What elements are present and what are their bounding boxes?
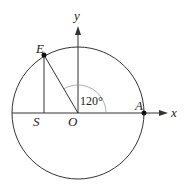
label-O: O: [68, 114, 78, 129]
segment-OE: [44, 55, 78, 113]
label-angle: 120°: [80, 94, 103, 108]
unit-circle-diagram: y x E A S O 120°: [0, 0, 185, 193]
label-A: A: [134, 98, 143, 113]
label-S: S: [33, 114, 40, 129]
y-axis-arrow-icon: [75, 26, 81, 35]
label-E: E: [35, 41, 44, 56]
label-x: x: [170, 105, 177, 120]
x-axis-arrow-icon: [159, 110, 168, 116]
label-y: y: [72, 8, 80, 23]
